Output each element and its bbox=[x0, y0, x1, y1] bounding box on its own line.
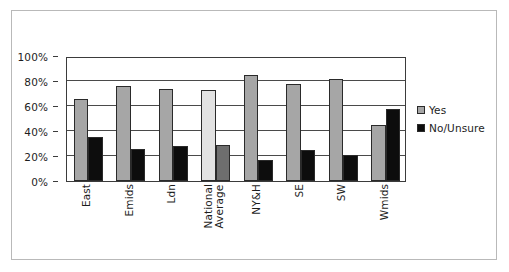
x-tick-label: Ldn bbox=[166, 184, 177, 203]
x-tick-label-part: Emids bbox=[124, 184, 135, 216]
bar-group bbox=[110, 58, 153, 181]
bar-yes bbox=[116, 86, 131, 181]
y-tick-mark bbox=[53, 81, 58, 82]
bar-group bbox=[237, 58, 280, 181]
y-tick-mark bbox=[53, 56, 58, 57]
y-tick-label: 40% bbox=[24, 126, 48, 138]
x-tick-label-part: Wmids bbox=[379, 184, 390, 220]
y-tick-mark bbox=[53, 106, 58, 107]
x-tick-label: SE bbox=[294, 184, 305, 198]
bar-yes bbox=[201, 90, 216, 181]
legend-item: Yes bbox=[417, 102, 485, 118]
bar-yes bbox=[74, 99, 89, 182]
y-tick-label: 80% bbox=[24, 76, 48, 88]
legend-swatch-icon bbox=[417, 124, 425, 132]
bar-no-unsure bbox=[131, 149, 146, 182]
bar-no-unsure bbox=[301, 150, 316, 181]
x-tick-label-part: Ldn bbox=[166, 184, 177, 203]
legend-swatch-icon bbox=[417, 106, 425, 114]
y-tick-mark bbox=[53, 156, 58, 157]
bar-group bbox=[67, 58, 110, 181]
bar-no-unsure bbox=[88, 137, 103, 181]
x-axis-labels: EastEmidsLdnNationalAverageNY&HSESWWmids bbox=[66, 184, 406, 264]
bar-no-unsure bbox=[258, 160, 273, 181]
y-tick-label: 60% bbox=[24, 101, 48, 113]
x-tick-label: Emids bbox=[124, 184, 135, 216]
bar-group bbox=[365, 58, 408, 181]
bar-yes bbox=[329, 79, 344, 182]
bar-yes bbox=[371, 125, 386, 181]
chart-legend: YesNo/Unsure bbox=[417, 102, 485, 138]
legend-item: No/Unsure bbox=[417, 120, 485, 136]
plot-area bbox=[66, 57, 406, 182]
bar-no-unsure bbox=[216, 145, 231, 181]
x-tick-label: SW bbox=[336, 184, 347, 201]
x-tick-label-part: NY&H bbox=[251, 184, 262, 215]
bar-group bbox=[322, 58, 365, 181]
bars-layer bbox=[67, 58, 405, 181]
x-tick-label: NY&H bbox=[251, 184, 262, 215]
y-tick-label: 100% bbox=[18, 51, 48, 63]
x-tick-label-part: SW bbox=[336, 184, 347, 201]
bar-no-unsure bbox=[173, 146, 188, 181]
x-tick-label-part: SE bbox=[294, 184, 305, 198]
bar-group bbox=[280, 58, 323, 181]
bar-no-unsure bbox=[343, 155, 358, 181]
chart-screenshot: 0%20%40%60%80%100% EastEmidsLdnNationalA… bbox=[0, 0, 509, 272]
y-tick-label: 0% bbox=[31, 176, 48, 188]
bar-group bbox=[152, 58, 195, 181]
legend-label: No/Unsure bbox=[429, 122, 485, 134]
legend-label: Yes bbox=[429, 104, 446, 116]
y-axis: 0%20%40%60%80%100% bbox=[0, 57, 58, 182]
bar-yes bbox=[244, 75, 259, 181]
x-tick-label-part: East bbox=[81, 184, 92, 207]
y-tick-mark bbox=[53, 131, 58, 132]
bar-no-unsure bbox=[386, 109, 401, 181]
bar-yes bbox=[286, 84, 301, 181]
x-tick-label-part: Average bbox=[214, 184, 225, 229]
x-tick-label: Wmids bbox=[379, 184, 390, 220]
x-tick-label: NationalAverage bbox=[203, 184, 225, 229]
x-tick-label: East bbox=[81, 184, 92, 207]
y-tick-label: 20% bbox=[24, 151, 48, 163]
bar-yes bbox=[159, 89, 174, 182]
bar-group bbox=[195, 58, 238, 181]
y-tick-mark bbox=[53, 181, 58, 182]
